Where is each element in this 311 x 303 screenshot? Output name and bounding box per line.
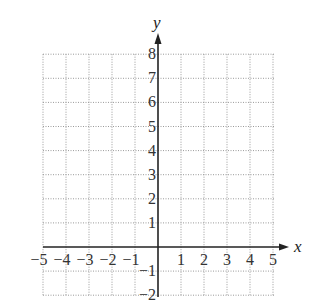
y-tick-label: 2: [148, 190, 156, 207]
x-tick-label: 5: [269, 251, 277, 268]
coordinate-plane: x y −5−4−3−2−112345 −2−112345678: [0, 0, 311, 303]
y-tick-label: −2: [139, 286, 156, 303]
x-tick-label: 2: [200, 251, 208, 268]
x-tick-label: −4: [53, 251, 70, 268]
y-tick-label: 6: [148, 93, 156, 110]
x-tick-label: 3: [223, 251, 231, 268]
y-tick-label: 4: [148, 142, 156, 159]
y-tick-label: 3: [148, 166, 156, 183]
x-tick-label: 4: [246, 251, 254, 268]
x-tick-label: −5: [30, 251, 47, 268]
x-axis-arrow-icon: [279, 244, 289, 251]
y-tick-label: 7: [148, 69, 156, 86]
x-tick-label: 1: [177, 251, 185, 268]
y-tick-label: 5: [148, 118, 156, 135]
x-tick-label: −1: [122, 251, 139, 268]
x-tick-label: −3: [76, 251, 93, 268]
y-axis-arrow-icon: [155, 33, 162, 44]
y-tick-label: 1: [148, 214, 156, 231]
y-tick-label: 8: [148, 45, 156, 62]
x-axis-label: x: [293, 237, 302, 256]
y-tick-labels: −2−112345678: [139, 45, 156, 303]
x-tick-label: −2: [99, 251, 116, 268]
y-axis-label: y: [151, 13, 161, 32]
y-tick-label: −1: [139, 262, 156, 279]
